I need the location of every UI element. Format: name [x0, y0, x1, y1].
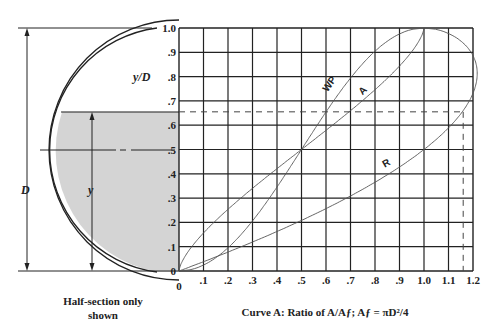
x-tick-label: .1 [199, 274, 207, 286]
y-tick-label: .7 [168, 95, 177, 107]
curve-label-a: A [356, 84, 369, 97]
half-section-caption-1: Half-section only [63, 295, 143, 307]
x-tick-label: 1.2 [466, 274, 480, 286]
x-tick-label: .7 [346, 274, 355, 286]
y-tick-label: .8 [168, 71, 177, 83]
arrowhead-up-icon [25, 28, 30, 36]
x-tick-label: 1.0 [417, 274, 431, 286]
x-tick-label: .3 [248, 274, 257, 286]
y-tick-label: .9 [168, 46, 177, 58]
y-tick-label: .1 [168, 241, 176, 253]
curve-caption: Curve A: Ratio of A/Aƒ; Aƒ = πD²/4 [242, 306, 409, 318]
axis-label-yD: y/D [131, 70, 151, 84]
y-tick-label: 1.0 [162, 22, 176, 34]
y-tick-label: .3 [168, 192, 177, 204]
x-origin-label: 0 [176, 280, 182, 292]
x-tick-label: 1.1 [442, 274, 456, 286]
shaded-flow-area [56, 112, 179, 272]
x-tick-label: .2 [224, 274, 233, 286]
x-tick-label: .9 [395, 274, 404, 286]
x-tick-label: .4 [273, 274, 282, 286]
chart-grid [179, 28, 473, 271]
arrowhead-down-icon [25, 263, 30, 271]
y-tick-label: .5 [168, 144, 177, 156]
y-tick-label: .2 [168, 216, 177, 228]
x-tick-label: .6 [322, 274, 331, 286]
y-tick-label: .6 [168, 119, 177, 131]
x-tick-label: .5 [297, 274, 306, 286]
y-tick-label: 0 [171, 265, 177, 277]
hydraulic-elements-diagram: D y y/D Half-section only shown .1.2.3.4… [0, 0, 495, 327]
arrowhead-down-icon [90, 263, 95, 271]
curve-label-r: R [380, 156, 392, 170]
half-section-pipe: D y y/D Half-section only shown [18, 20, 179, 321]
y-tick-label: .4 [168, 168, 177, 180]
label-y: y [86, 183, 94, 197]
x-tick-label: .8 [371, 274, 380, 286]
label-D: D [20, 183, 30, 197]
half-section-caption-2: shown [88, 309, 118, 321]
